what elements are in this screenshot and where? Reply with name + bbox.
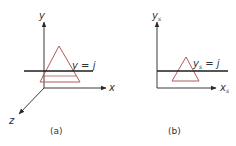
panel-a: y x z y = j (a) bbox=[8, 10, 115, 136]
panel-b: ys xs ys = j (b) bbox=[151, 10, 229, 136]
y-axis-label: y bbox=[38, 10, 46, 21]
z-axis bbox=[19, 88, 44, 114]
caption-b: (b) bbox=[168, 126, 181, 136]
xs-axis-label: xs bbox=[219, 82, 229, 94]
scanline-label: y = j bbox=[71, 60, 96, 71]
ys-axis-label: ys bbox=[151, 10, 161, 22]
x-axis-label: x bbox=[108, 82, 115, 93]
scanline-screen-label: ys = j bbox=[192, 58, 220, 70]
caption-a: (a) bbox=[50, 126, 63, 136]
scanline-diagram: y x z y = j (a) ys xs ys = j (b) bbox=[0, 0, 236, 146]
z-axis-label: z bbox=[8, 115, 15, 126]
